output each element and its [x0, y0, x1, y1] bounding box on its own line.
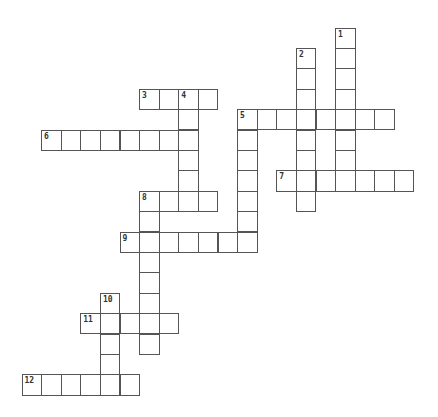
clue-number: 9	[123, 234, 128, 243]
crossword-cell[interactable]	[218, 232, 239, 253]
crossword-cell[interactable]: 10	[100, 293, 121, 314]
clue-number: 3	[142, 91, 147, 100]
crossword-cell[interactable]	[335, 130, 356, 151]
crossword-cell[interactable]	[178, 150, 199, 171]
clue-number: 4	[181, 91, 186, 100]
crossword-cell[interactable]	[100, 130, 121, 151]
crossword-cell[interactable]: 1	[335, 28, 356, 49]
clue-number: 2	[299, 50, 304, 59]
crossword-cell[interactable]	[296, 191, 317, 212]
clue-number: 11	[83, 315, 93, 324]
crossword-cell[interactable]	[100, 374, 121, 395]
crossword-cell[interactable]	[41, 374, 62, 395]
crossword-cell[interactable]	[100, 334, 121, 355]
crossword-cell[interactable]: 6	[41, 130, 62, 151]
crossword-cell[interactable]	[178, 232, 199, 253]
crossword-cell[interactable]	[159, 313, 180, 334]
crossword-cell[interactable]	[296, 170, 317, 191]
crossword-cell[interactable]	[257, 109, 278, 130]
crossword-cell[interactable]	[355, 170, 376, 191]
crossword-cell[interactable]	[61, 374, 82, 395]
crossword-cell[interactable]	[178, 130, 199, 151]
crossword-cell[interactable]	[159, 191, 180, 212]
crossword-cell[interactable]	[61, 130, 82, 151]
crossword-cell[interactable]	[296, 68, 317, 89]
crossword-cell[interactable]	[276, 109, 297, 130]
crossword-cell[interactable]	[198, 232, 219, 253]
crossword-cell[interactable]	[139, 130, 160, 151]
crossword-cell[interactable]: 5	[237, 109, 258, 130]
crossword-cell[interactable]	[100, 354, 121, 375]
crossword-cell[interactable]: 2	[296, 48, 317, 69]
crossword-cell[interactable]	[178, 109, 199, 130]
crossword-cell[interactable]	[80, 374, 101, 395]
crossword-cell[interactable]: 7	[276, 170, 297, 191]
crossword-cell[interactable]	[374, 109, 395, 130]
clue-number: 10	[103, 295, 113, 304]
crossword-cell[interactable]	[178, 170, 199, 191]
crossword-cell[interactable]	[198, 89, 219, 110]
crossword-cell[interactable]	[139, 272, 160, 293]
crossword-cell[interactable]	[335, 68, 356, 89]
crossword-cell[interactable]	[335, 170, 356, 191]
crossword-cell[interactable]	[237, 232, 258, 253]
crossword-cell[interactable]	[335, 89, 356, 110]
crossword-cell[interactable]	[296, 130, 317, 151]
crossword-cell[interactable]: 8	[139, 191, 160, 212]
crossword-cell[interactable]	[296, 150, 317, 171]
crossword-cell[interactable]	[139, 293, 160, 314]
crossword-cell[interactable]	[139, 252, 160, 273]
crossword-cell[interactable]	[80, 130, 101, 151]
crossword-cell[interactable]	[335, 150, 356, 171]
crossword-cell[interactable]: 11	[80, 313, 101, 334]
crossword-cell[interactable]	[159, 89, 180, 110]
crossword-cell[interactable]	[316, 170, 337, 191]
crossword-cell[interactable]	[237, 191, 258, 212]
crossword-cell[interactable]	[159, 232, 180, 253]
crossword-grid: 123456789101112	[0, 0, 438, 417]
crossword-cell[interactable]	[198, 191, 219, 212]
clue-number: 8	[142, 193, 147, 202]
crossword-cell[interactable]	[296, 109, 317, 130]
crossword-cell[interactable]	[355, 109, 376, 130]
crossword-cell[interactable]	[374, 170, 395, 191]
crossword-cell[interactable]: 12	[22, 374, 43, 395]
crossword-cell[interactable]	[237, 211, 258, 232]
crossword-cell[interactable]	[296, 89, 317, 110]
crossword-cell[interactable]	[335, 48, 356, 69]
crossword-cell[interactable]	[100, 313, 121, 334]
crossword-cell[interactable]	[335, 109, 356, 130]
crossword-cell[interactable]	[394, 170, 415, 191]
crossword-cell[interactable]: 3	[139, 89, 160, 110]
clue-number: 7	[279, 172, 284, 181]
clue-number: 1	[338, 30, 343, 39]
crossword-cell[interactable]	[120, 313, 141, 334]
crossword-cell[interactable]	[237, 130, 258, 151]
crossword-cell[interactable]	[139, 313, 160, 334]
crossword-cell[interactable]	[237, 150, 258, 171]
crossword-cell[interactable]	[237, 170, 258, 191]
clue-number: 5	[240, 111, 245, 120]
clue-number: 12	[25, 376, 35, 385]
clue-number: 6	[44, 132, 49, 141]
crossword-cell[interactable]: 4	[178, 89, 199, 110]
crossword-cell[interactable]	[159, 130, 180, 151]
crossword-cell[interactable]: 9	[120, 232, 141, 253]
crossword-cell[interactable]	[139, 211, 160, 232]
crossword-cell[interactable]	[139, 334, 160, 355]
crossword-cell[interactable]	[120, 130, 141, 151]
crossword-cell[interactable]	[178, 191, 199, 212]
crossword-cell[interactable]	[139, 232, 160, 253]
crossword-cell[interactable]	[120, 374, 141, 395]
crossword-cell[interactable]	[316, 109, 337, 130]
